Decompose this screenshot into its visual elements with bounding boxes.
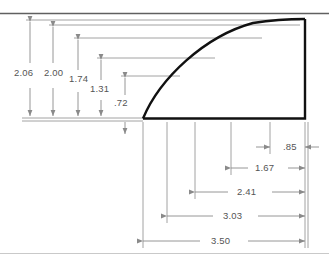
dim-label-1-67: 1.67 xyxy=(255,162,274,173)
horizontal-dimension-labels: .85 1.67 2.41 3.03 3.50 xyxy=(211,141,297,246)
dim-label-2-06: 2.06 xyxy=(14,67,33,78)
sheet-border xyxy=(0,14,329,254)
dim-label-1-31: 1.31 xyxy=(90,83,109,94)
drawing-sheet: 2.06 2.00 1.74 1.31 .72 xyxy=(0,0,329,261)
dim-label-1-74: 1.74 xyxy=(69,73,88,84)
vertical-dim-extension-lines xyxy=(22,20,300,121)
dim-label-2-00: 2.00 xyxy=(44,67,63,78)
dim-label-2-41: 2.41 xyxy=(237,186,256,197)
part-outline xyxy=(143,19,305,119)
vertical-dimension-labels: 2.06 2.00 1.74 1.31 .72 xyxy=(14,67,128,108)
technical-drawing-canvas: 2.06 2.00 1.74 1.31 .72 xyxy=(0,0,329,261)
dim-label-3-03: 3.03 xyxy=(223,210,242,221)
dim-label-0-72: .72 xyxy=(114,97,128,108)
dim-label-0-85: .85 xyxy=(283,141,297,152)
dim-label-3-50: 3.50 xyxy=(211,235,230,246)
